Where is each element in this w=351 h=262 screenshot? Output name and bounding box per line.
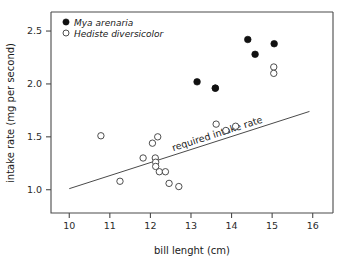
trend-line-annotation: required intake rate	[171, 114, 264, 153]
data-point-open	[149, 140, 155, 146]
legend-marker-filled-circle	[63, 19, 69, 25]
data-point-open	[213, 121, 219, 127]
x-tick-label: 14	[226, 220, 238, 231]
chart-legend: Mya arenaria Hediste diversicolor	[63, 18, 165, 39]
data-point-open	[117, 178, 123, 184]
y-axis-tick-labels: 1.01.52.02.5	[27, 25, 42, 195]
x-tick-label: 15	[266, 220, 278, 231]
x-axis-tick-labels: 10111213141516	[63, 220, 319, 231]
data-point-open	[155, 134, 161, 140]
x-axis-ticks	[69, 213, 312, 218]
x-tick-label: 16	[307, 220, 319, 231]
data-point-open	[98, 133, 104, 139]
y-axis-ticks	[46, 31, 51, 190]
legend-label-mya-arenaria: Mya arenaria	[74, 18, 133, 28]
data-point-open	[166, 180, 172, 186]
required-intake-rate-line	[69, 111, 309, 188]
axis-frame	[51, 12, 333, 213]
data-point-open	[223, 127, 229, 133]
x-tick-label: 10	[63, 220, 75, 231]
data-point-open	[271, 64, 277, 70]
legend-marker-open-circle	[63, 30, 69, 36]
y-tick-label: 2.5	[27, 25, 42, 36]
x-tick-label: 11	[104, 220, 116, 231]
x-tick-label: 13	[185, 220, 197, 231]
y-tick-label: 2.0	[27, 78, 42, 89]
x-axis-title: bill lenght (cm)	[154, 245, 230, 256]
chart-canvas: 10111213141516 1.01.52.02.5 bill lenght …	[0, 0, 351, 262]
trend-line-segment	[69, 111, 309, 188]
y-axis-title: intake rate (mg per second)	[5, 43, 16, 183]
data-point-filled	[271, 40, 278, 47]
scatter-plot-figure: 10111213141516 1.01.52.02.5 bill lenght …	[0, 0, 351, 262]
data-point-filled	[252, 51, 259, 58]
data-point-open	[271, 70, 277, 76]
required-intake-rate-label: required intake rate	[171, 114, 264, 153]
data-point-open	[156, 169, 162, 175]
data-point-filled	[212, 85, 219, 92]
data-point-open	[176, 183, 182, 189]
data-point-open	[140, 155, 146, 161]
data-point-open	[162, 169, 168, 175]
y-tick-label: 1.5	[27, 131, 42, 142]
data-point-open	[232, 123, 238, 129]
plot-frame	[51, 12, 333, 213]
legend-label-hediste-diversicolor: Hediste diversicolor	[74, 29, 165, 39]
y-tick-label: 1.0	[27, 184, 42, 195]
x-tick-label: 12	[144, 220, 156, 231]
data-point-filled	[244, 36, 251, 43]
data-points-mya-arenaria	[194, 36, 278, 91]
data-point-filled	[194, 79, 201, 86]
